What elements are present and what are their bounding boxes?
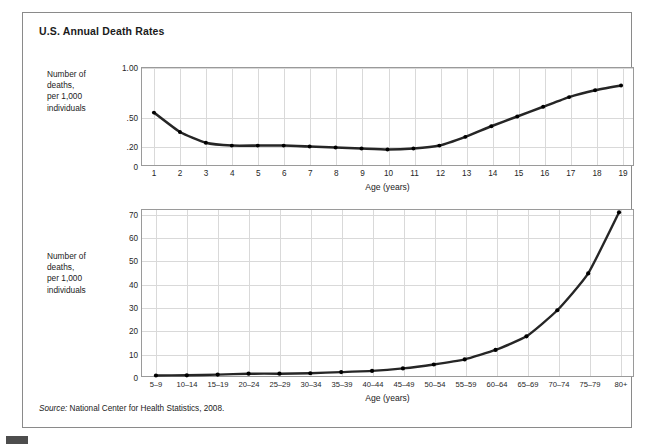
x-axis-tick-label: 15 — [514, 169, 523, 178]
gridline-vertical — [187, 210, 188, 376]
gridline-vertical — [389, 68, 390, 165]
y-axis-caption-bottom: Number of deaths, per 1,000 individuals — [47, 251, 123, 296]
gridline-vertical — [218, 210, 219, 376]
y-axis-tick-label: 60 — [129, 234, 138, 243]
x-axis-tick-label: 75–79 — [579, 380, 600, 389]
x-axis-tick-label: 7 — [308, 169, 313, 178]
gridline-vertical — [441, 68, 442, 165]
gridline-vertical — [571, 68, 572, 165]
gridline-vertical — [597, 68, 598, 165]
y-axis-tick-label: 0 — [133, 163, 138, 172]
gridline-vertical — [154, 68, 155, 165]
x-axis-tick-label: 5–9 — [150, 380, 163, 389]
y-axis-tick-label: 0 — [133, 374, 138, 383]
gridline-vertical — [493, 68, 494, 165]
gridline-vertical — [342, 210, 343, 376]
gridline-vertical — [519, 68, 520, 165]
gridline-vertical — [415, 68, 416, 165]
x-axis-tick-label: 65–69 — [517, 380, 538, 389]
gridline-vertical — [311, 210, 312, 376]
x-axis-tick-label: 10–14 — [176, 380, 197, 389]
x-axis-tick-label: 5 — [256, 169, 261, 178]
gridline-vertical — [249, 210, 250, 376]
gridline-vertical — [528, 210, 529, 376]
gridline-horizontal — [142, 238, 633, 239]
x-axis-tick-label: 8 — [334, 169, 339, 178]
gridline-vertical — [280, 210, 281, 376]
x-axis-tick-label: 60–64 — [486, 380, 507, 389]
x-axis-tick-label: 14 — [488, 169, 497, 178]
gridline-vertical — [310, 68, 311, 165]
gridline-horizontal — [142, 355, 633, 356]
page-title: U.S. Annual Death Rates — [39, 25, 165, 37]
gridline-vertical — [466, 210, 467, 376]
x-axis-tick-label: 25–29 — [269, 380, 290, 389]
chart-top-annual-death-rates-by-single-year: 1.00.50.200 1234567891011121314151617181… — [141, 67, 634, 166]
gridline-vertical — [497, 210, 498, 376]
gridline-vertical — [284, 68, 285, 165]
x-axis-tick-label: 11 — [410, 169, 419, 178]
gridline-horizontal — [142, 261, 633, 262]
x-axis-tick-label: 18 — [592, 169, 601, 178]
gridline-horizontal — [142, 68, 633, 69]
x-axis-tick-label: 50–54 — [424, 380, 445, 389]
gridline-horizontal — [142, 285, 633, 286]
series-path — [156, 212, 619, 375]
gridline-vertical — [590, 210, 591, 376]
gridline-horizontal — [142, 331, 633, 332]
x-axis-tick-label: 6 — [282, 169, 287, 178]
gridline-vertical — [206, 68, 207, 165]
gridline-vertical — [435, 210, 436, 376]
source-text: National Center for Health Statistics, 2… — [67, 404, 224, 413]
gridline-vertical — [362, 68, 363, 165]
x-axis-tick-label: 70–74 — [548, 380, 569, 389]
y-axis-tick-label: .20 — [127, 143, 138, 152]
x-axis-label-top: Age (years) — [365, 182, 409, 192]
source-note: Source: National Center for Health Stati… — [39, 404, 224, 413]
x-axis-tick-label: 15–19 — [207, 380, 228, 389]
gridline-vertical — [336, 68, 337, 165]
x-axis-tick-label: 30–34 — [300, 380, 321, 389]
x-axis-tick-label: 55–59 — [455, 380, 476, 389]
x-axis-tick-label: 35–39 — [331, 380, 352, 389]
gridline-vertical — [404, 210, 405, 376]
x-axis-tick-label: 80+ — [615, 380, 628, 389]
x-axis-tick-label: 17 — [566, 169, 575, 178]
gridline-vertical — [545, 68, 546, 165]
corner-mark — [6, 436, 28, 444]
gridline-vertical — [258, 68, 259, 165]
gridline-horizontal — [142, 215, 633, 216]
x-axis-tick-label: 12 — [436, 169, 445, 178]
x-axis-label-bottom: Age (years) — [365, 393, 409, 403]
x-axis-tick-label: 2 — [178, 169, 183, 178]
x-axis-tick-label: 16 — [540, 169, 549, 178]
chart-bottom-annual-death-rates-by-age-group: 010203040506070 5–910–1415–1920–2425–293… — [141, 209, 634, 377]
y-axis-tick-label: 50 — [129, 257, 138, 266]
gridline-vertical — [373, 210, 374, 376]
gridline-vertical — [623, 68, 624, 165]
source-label: Source: — [39, 404, 67, 413]
y-axis-tick-label: 20 — [129, 327, 138, 336]
figure-page: U.S. Annual Death Rates Number of deaths… — [0, 0, 654, 448]
x-axis-tick-label: 40–44 — [362, 380, 383, 389]
gridline-vertical — [559, 210, 560, 376]
y-axis-caption-top: Number of deaths, per 1,000 individuals — [47, 69, 123, 114]
gridline-vertical — [180, 68, 181, 165]
gridline-vertical — [156, 210, 157, 376]
x-axis-tick-label: 3 — [204, 169, 209, 178]
x-axis-tick-label: 13 — [462, 169, 471, 178]
x-axis-tick-label: 4 — [230, 169, 235, 178]
series-line-top — [142, 68, 633, 165]
x-axis-tick-label: 45–49 — [393, 380, 414, 389]
x-axis-tick-label: 10 — [384, 169, 393, 178]
gridline-horizontal — [142, 118, 633, 119]
y-axis-tick-label: 1.00 — [122, 64, 138, 73]
x-axis-tick-label: 1 — [152, 169, 157, 178]
gridline-horizontal — [142, 147, 633, 148]
x-axis-tick-label: 9 — [360, 169, 365, 178]
figure-frame: U.S. Annual Death Rates Number of deaths… — [22, 12, 632, 428]
gridline-vertical — [621, 210, 622, 376]
y-axis-tick-label: 70 — [129, 210, 138, 219]
y-axis-tick-label: .50 — [127, 113, 138, 122]
x-axis-tick-label: 19 — [618, 169, 627, 178]
